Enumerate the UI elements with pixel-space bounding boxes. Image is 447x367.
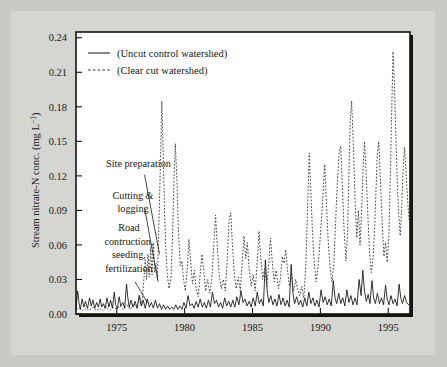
y-tick-label: 0.00 — [49, 309, 67, 320]
y-tick-label: 0.12 — [49, 171, 67, 182]
y-tick-label: 0.24 — [49, 32, 68, 43]
nitrate-concentration-line-chart: 0.000.030.060.090.120.150.180.210.24 197… — [0, 0, 447, 367]
y-tick-label: 0.15 — [49, 136, 67, 147]
x-tick-label: 1990 — [310, 322, 331, 333]
x-axis-tick-labels: 19751980198519901995 — [106, 322, 399, 333]
y-tick-label: 0.03 — [49, 274, 67, 285]
svg-text:Stream nitrate-N conc. (mg L−1: Stream nitrate-N conc. (mg L−1) — [29, 112, 43, 248]
y-axis-title-superscript: −1 — [29, 116, 38, 124]
x-tick-label: 1975 — [106, 322, 127, 333]
y-axis-title-main: Stream nitrate-N conc. (mg L — [30, 124, 42, 248]
y-tick-label: 0.18 — [49, 102, 67, 113]
y-axis-tick-labels: 0.000.030.060.090.120.150.180.210.24 — [49, 32, 68, 319]
x-tick-label: 1980 — [174, 322, 195, 333]
y-tick-label: 0.21 — [49, 67, 67, 78]
annotation-label-0: Site preparation — [106, 158, 171, 169]
y-tick-label: 0.09 — [49, 205, 67, 216]
y-tick-label: 0.06 — [49, 240, 67, 251]
figure-container: 0.000.030.060.090.120.150.180.210.24 197… — [0, 0, 447, 367]
y-axis-title: Stream nitrate-N conc. (mg L−1) — [29, 112, 43, 248]
y-axis-title-tail: ) — [30, 112, 42, 116]
legend-label-clear-cut: (Clear cut watershed) — [117, 65, 208, 77]
x-tick-label: 1995 — [378, 322, 399, 333]
legend-label-uncut-control: (Uncut control watershed) — [117, 48, 228, 60]
x-tick-label: 1985 — [242, 322, 263, 333]
